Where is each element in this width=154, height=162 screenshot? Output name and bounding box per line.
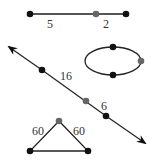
segment-figure: 5 2 [27,11,130,31]
segment-endpoint-right [123,11,130,18]
ellipse-figure [85,44,144,79]
ellipse-point-bottom [110,72,117,79]
triangle-vertex-right [85,148,92,155]
segment-label-2: 2 [103,17,109,31]
arrow-down-right-icon [106,116,145,143]
ellipse-point-right-gray [138,58,145,65]
line-point-lower [103,113,110,120]
line-label-16: 16 [60,69,72,83]
line-body [42,70,106,116]
segment-label-5: 5 [47,17,53,31]
line-point-upper [39,67,46,74]
triangle-figure: 60 60 [27,118,92,155]
ellipse-point-top [110,44,117,51]
ellipse-shape [85,47,141,75]
segment-endpoint-left [27,11,34,18]
triangle-label-left-60: 60 [32,124,44,138]
segment-midpoint-gray [93,11,100,18]
line-label-6: 6 [101,99,107,113]
line-point-gray [83,98,90,105]
geometry-diagram: 5 2 16 6 60 60 [0,0,154,162]
triangle-vertex-left [27,148,34,155]
arrow-up-left-icon [9,47,42,70]
triangle-vertex-top-gray [56,118,63,125]
triangle-label-right-60: 60 [73,124,85,138]
